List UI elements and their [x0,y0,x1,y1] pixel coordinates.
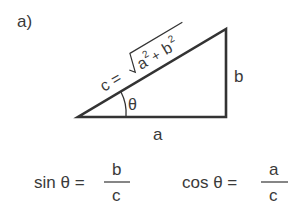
right-triangle [78,29,226,117]
cos-formula: cos θ = a c [182,160,288,205]
opposite-side-label: b [234,67,243,86]
sqrt-icon [122,22,192,74]
cos-numerator: a [269,160,279,179]
angle-arc [121,92,126,117]
cos-denominator: c [269,186,278,205]
adjacent-side-label: a [153,125,163,144]
sin-denominator: c [112,186,121,205]
trig-diagram: a) θ c = a 2 + b 2 b a sin θ = b c cos θ… [0,0,301,216]
sin-formula: sin θ = b c [34,160,130,205]
cos-lhs: cos θ = [182,173,237,192]
plus-sign: + [148,47,163,65]
sin-numerator: b [112,160,121,179]
angle-label: θ [128,96,137,113]
panel-label: a) [17,12,32,31]
sin-lhs: sin θ = [34,173,85,192]
